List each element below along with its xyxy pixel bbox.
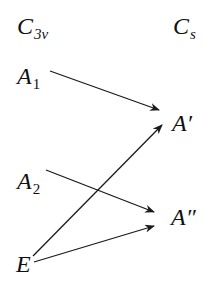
arrow-a2-to-a-double-prime (46, 170, 154, 212)
correlation-arrows (0, 0, 205, 283)
arrow-a1-to-a-prime (50, 71, 159, 110)
arrow-e-to-a-double-prime (34, 226, 154, 262)
